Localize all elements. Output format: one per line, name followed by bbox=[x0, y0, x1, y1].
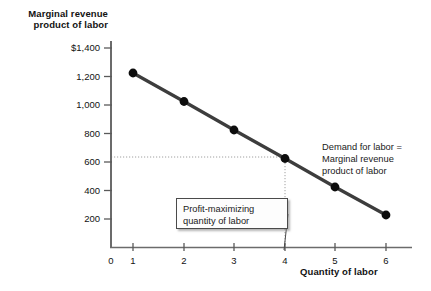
y-tick-label-800: 800 bbox=[38, 128, 100, 139]
callout-line-1: Profit-maximizing bbox=[183, 203, 254, 215]
data-point-2 bbox=[180, 97, 189, 106]
demand-curve-annotation: Demand for labor = Marginal revenue prod… bbox=[322, 141, 402, 177]
x-tick-label-5: 5 bbox=[327, 255, 343, 266]
callout-line-2: quantity of labor bbox=[183, 215, 254, 227]
figure-container: Marginal revenue product of labor $1,400… bbox=[0, 0, 431, 291]
y-tick-label-200: 200 bbox=[38, 213, 100, 224]
x-tick-label-1: 1 bbox=[125, 255, 141, 266]
y-tick-label-1000: 1,000 bbox=[38, 99, 100, 110]
profit-maximizing-callout-box: Profit-maximizing quantity of labor bbox=[176, 198, 288, 229]
demand-annotation-line-1: Demand for labor = bbox=[322, 141, 402, 153]
data-point-3 bbox=[230, 126, 239, 135]
y-axis-title-line-1: Marginal revenue bbox=[20, 8, 108, 19]
y-axis-title: Marginal revenue product of labor bbox=[20, 8, 108, 30]
x-axis-title: Quantity of labor bbox=[300, 266, 378, 277]
data-point-5 bbox=[331, 183, 340, 192]
x-tick-label-6: 6 bbox=[378, 255, 394, 266]
data-point-4 bbox=[281, 154, 290, 163]
x-tick-label-3: 3 bbox=[226, 255, 242, 266]
y-tick-label-600: 600 bbox=[38, 156, 100, 167]
data-point-6 bbox=[382, 211, 391, 220]
data-point-1 bbox=[129, 69, 138, 78]
y-tick-label-1200: 1,200 bbox=[38, 71, 100, 82]
y-tick-label-1400: $1,400 bbox=[38, 42, 100, 53]
demand-annotation-line-3: product of labor bbox=[322, 165, 402, 177]
x-tick-label-4: 4 bbox=[277, 255, 293, 266]
x-tick-label-2: 2 bbox=[176, 255, 192, 266]
y-tick-label-400: 400 bbox=[38, 185, 100, 196]
y-axis-title-line-2: product of labor bbox=[20, 19, 108, 30]
x-tick-label-0: 0 bbox=[103, 255, 119, 266]
demand-annotation-line-2: Marginal revenue bbox=[322, 153, 402, 165]
profit-maximizing-callout-text: Profit-maximizing quantity of labor bbox=[183, 203, 254, 228]
